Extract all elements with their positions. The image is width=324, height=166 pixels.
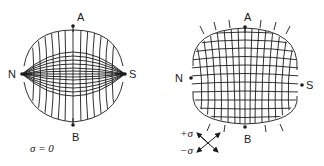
label-s: S <box>306 79 313 91</box>
label-a: A <box>77 11 85 23</box>
right-mesh <box>190 27 300 126</box>
pole-s-dot <box>123 72 127 76</box>
diagram-canvas: A B N S σ = 0 <box>0 0 324 166</box>
left-panel: A B N S σ = 0 <box>8 11 136 154</box>
pole-b-dot <box>243 125 247 129</box>
pole-n-dot <box>189 76 193 80</box>
label-n: N <box>8 68 16 80</box>
label-b: B <box>72 131 79 143</box>
pole-a-dot <box>71 24 75 28</box>
right-panel: A B N S +σ −σ <box>175 11 313 156</box>
legend-positive-sigma: +σ <box>180 127 193 139</box>
label-n: N <box>175 72 183 84</box>
legend-negative-sigma: −σ <box>180 144 193 156</box>
pole-a-dot <box>243 25 247 29</box>
stress-legend: +σ −σ <box>180 127 220 156</box>
label-a: A <box>244 11 252 23</box>
pole-b-dot <box>71 123 75 127</box>
caption-sigma-zero: σ = 0 <box>30 142 54 154</box>
crossed-arrows-icon <box>197 133 220 152</box>
label-s: S <box>129 68 136 80</box>
pole-n-dot <box>20 72 24 76</box>
pole-s-dot <box>300 83 304 87</box>
label-b: B <box>244 133 251 145</box>
